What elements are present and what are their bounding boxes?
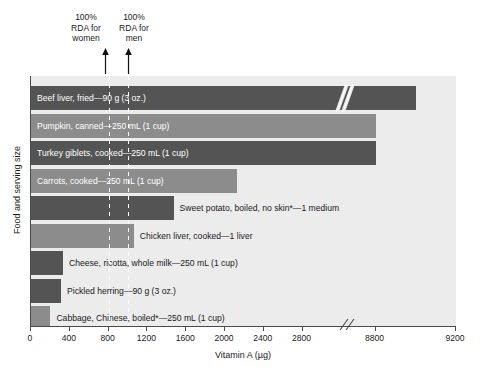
- bar-row[interactable]: Pickled herring—90 g (3 oz.): [31, 279, 456, 303]
- x-tick-label: 2000: [204, 333, 244, 343]
- x-tick-label: 1200: [126, 333, 166, 343]
- bar-label: Beef liver, fried—90 g (3 oz.): [37, 86, 146, 110]
- bar-row[interactable]: Pumpkin, canned—250 mL (1 cup): [31, 114, 456, 138]
- bar-row[interactable]: Sweet potato, boiled, no skin*—1 medium: [31, 196, 456, 220]
- x-tick-mark: [263, 327, 264, 331]
- bar-row[interactable]: Chicken liver, cooked—1 liver: [31, 224, 456, 248]
- x-tick-mark: [375, 327, 376, 331]
- bar-label: Turkey giblets, cooked—250 mL (1 cup): [37, 141, 189, 165]
- x-tick-label: 0: [10, 333, 50, 343]
- bar-label: Pickled herring—90 g (3 oz.): [67, 279, 176, 303]
- bar[interactable]: [31, 306, 50, 326]
- rda-men-arrow-icon: [124, 48, 133, 74]
- x-tick-label: 1600: [165, 333, 205, 343]
- rda-women-arrow-icon: [101, 48, 110, 74]
- bar-row[interactable]: Turkey giblets, cooked—250 mL (1 cup): [31, 141, 456, 165]
- x-tick-label: 9200: [435, 333, 475, 343]
- x-tick-label: 800: [88, 333, 128, 343]
- x-axis-line: [30, 326, 456, 327]
- x-tick-label: 2800: [282, 333, 322, 343]
- bar-label: Cheese, ricotta, whole milk—250 mL (1 cu…: [69, 251, 238, 275]
- bar-row[interactable]: Cabbage, Chinese, boiled*—250 mL (1 cup): [31, 306, 456, 326]
- y-axis-title: Food and serving size: [12, 125, 22, 255]
- x-tick-mark: [108, 327, 109, 331]
- x-tick-mark: [30, 327, 31, 331]
- x-tick-mark: [224, 327, 225, 331]
- bar[interactable]: [31, 196, 174, 220]
- bar-label: Sweet potato, boiled, no skin*—1 medium: [180, 196, 340, 220]
- plot-area: Beef liver, fried—90 g (3 oz.)Pumpkin, c…: [30, 76, 456, 326]
- vitamin-a-bar-chart: 100% RDA for women 100% RDA for men Beef…: [0, 0, 481, 382]
- x-tick-label: 8800: [355, 333, 395, 343]
- axis-break-icon: [336, 318, 358, 332]
- bar-label: Pumpkin, canned—250 mL (1 cup): [37, 114, 169, 138]
- bar-row[interactable]: Carrots, cooked—250 mL (1 cup): [31, 169, 456, 193]
- bar[interactable]: [31, 279, 61, 303]
- x-tick-mark: [185, 327, 186, 331]
- bar-label: Carrots, cooked—250 mL (1 cup): [37, 169, 164, 193]
- bar-row[interactable]: Cheese, ricotta, whole milk—250 mL (1 cu…: [31, 251, 456, 275]
- x-tick-mark: [302, 327, 303, 331]
- x-axis-title: Vitamin A (µg): [30, 350, 456, 360]
- rda-men-annotation: 100% RDA for men: [112, 12, 156, 44]
- rda-line-women: [109, 76, 110, 326]
- x-tick-label: 2400: [243, 333, 283, 343]
- bar-row[interactable]: Beef liver, fried—90 g (3 oz.): [31, 86, 456, 110]
- rda-women-annotation: 100% RDA for women: [62, 12, 110, 44]
- bar[interactable]: [31, 224, 134, 248]
- bar[interactable]: [31, 251, 63, 275]
- bar-label: Cabbage, Chinese, boiled*—250 mL (1 cup): [56, 306, 224, 326]
- x-tick-label: 400: [49, 333, 89, 343]
- x-tick-mark: [455, 327, 456, 331]
- x-tick-mark: [146, 327, 147, 331]
- x-tick-mark: [69, 327, 70, 331]
- rda-line-men: [128, 76, 129, 326]
- bar-label: Chicken liver, cooked—1 liver: [140, 224, 253, 248]
- plot-inner: Beef liver, fried—90 g (3 oz.)Pumpkin, c…: [31, 76, 456, 326]
